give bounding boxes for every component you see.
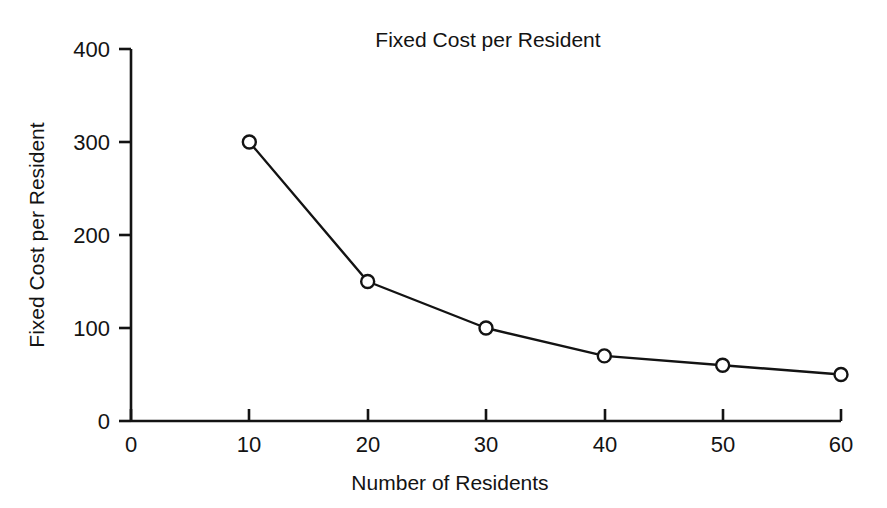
data-point-40: [598, 349, 611, 362]
data-point-60: [835, 368, 848, 381]
x-tick-label-60: 60: [829, 432, 853, 457]
data-point-30: [480, 322, 493, 335]
y-tick-label-200: 200: [73, 223, 110, 248]
x-tick-label-10: 10: [237, 432, 261, 457]
line-chart: Fixed Cost per Resident Fixed Cost per R…: [0, 0, 887, 508]
y-axis-title: Fixed Cost per Resident: [25, 122, 48, 347]
y-tick-label-100: 100: [73, 316, 110, 341]
chart-title: Fixed Cost per Resident: [375, 28, 600, 51]
y-tick-label-0: 0: [98, 409, 110, 434]
x-tick-label-20: 20: [356, 432, 380, 457]
chart-figure: Fixed Cost per Resident Fixed Cost per R…: [0, 0, 887, 508]
data-point-20: [361, 275, 374, 288]
x-tick-label-30: 30: [474, 432, 498, 457]
x-tick-label-50: 50: [711, 432, 735, 457]
y-tick-label-400: 400: [73, 37, 110, 62]
x-axis-title: Number of Residents: [351, 471, 548, 494]
y-tick-label-300: 300: [73, 130, 110, 155]
x-tick-label-0: 0: [125, 432, 137, 457]
data-point-10: [243, 136, 256, 149]
x-tick-label-40: 40: [593, 432, 617, 457]
data-point-50: [716, 359, 729, 372]
